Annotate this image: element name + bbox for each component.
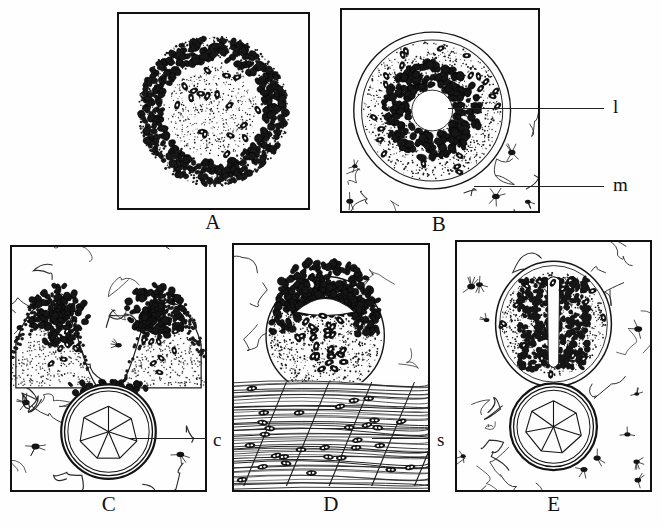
panel-b-letter: B bbox=[424, 214, 454, 235]
panel-c bbox=[10, 245, 207, 492]
panel-c-letter: C bbox=[94, 494, 124, 515]
label-m: m bbox=[613, 175, 628, 194]
panel-b bbox=[340, 8, 540, 213]
label-c: c bbox=[213, 430, 221, 449]
panel-a-drawing bbox=[119, 14, 308, 208]
label-s: s bbox=[437, 430, 444, 449]
leader-line-m bbox=[474, 186, 604, 187]
panel-d-letter: D bbox=[316, 494, 346, 515]
panel-a bbox=[117, 12, 310, 210]
panel-e bbox=[455, 240, 652, 492]
panel-e-drawing bbox=[457, 242, 650, 490]
panel-c-drawing bbox=[12, 247, 205, 490]
panel-e-letter: E bbox=[539, 494, 569, 515]
panel-a-letter: A bbox=[198, 212, 228, 233]
panel-d bbox=[232, 243, 430, 492]
figure-root: ABlmCcDsE bbox=[0, 0, 662, 526]
panel-d-drawing bbox=[234, 245, 428, 490]
label-l: l bbox=[613, 97, 618, 116]
leader-line-s bbox=[372, 438, 430, 439]
panel-b-drawing bbox=[342, 10, 538, 211]
leader-line-c bbox=[128, 438, 207, 439]
leader-line-l bbox=[448, 108, 604, 109]
